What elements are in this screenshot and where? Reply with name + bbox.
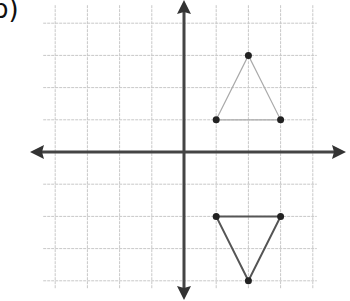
y-axis-down-arrow-icon — [177, 286, 191, 300]
x-axis-left-arrow-icon — [30, 145, 44, 159]
vertex-point — [213, 213, 220, 220]
vertex-point — [213, 116, 220, 123]
vertex-point — [277, 116, 284, 123]
vertex-point — [277, 213, 284, 220]
coordinate-plane — [0, 0, 350, 301]
x-axis-right-arrow-icon — [332, 145, 346, 159]
vertex-point — [245, 52, 252, 59]
y-axis-up-arrow-icon — [177, 0, 191, 14]
vertex-point — [245, 277, 252, 284]
grid-lines — [43, 5, 317, 289]
axes — [30, 0, 346, 300]
